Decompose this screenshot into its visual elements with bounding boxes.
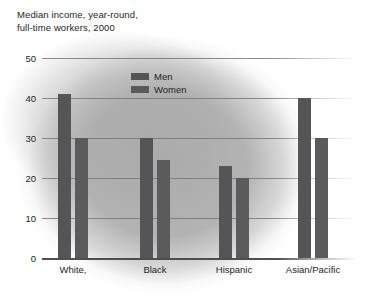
bar-asian-pacific-women: [315, 138, 328, 258]
legend-swatch-women-icon: [131, 86, 149, 93]
chart-figure: Median income, year-round, full-time wor…: [0, 0, 373, 299]
x-tick-label-asian-pacific: Asian/Pacific: [286, 264, 340, 275]
bar-hispanic-women: [236, 178, 249, 258]
y-tick-label-0: 0: [31, 253, 36, 264]
x-tick-label-hispanic: Hispanic: [216, 264, 252, 275]
chart-legend: Men Women: [131, 70, 187, 96]
gridline-50: 50: [42, 58, 358, 59]
plot-area: 50 40 30 20 10 0 White, Black: [42, 58, 358, 258]
y-tick-label-40: 40: [25, 93, 36, 104]
legend-item-women: Women: [131, 83, 187, 96]
y-tick-label-50: 50: [25, 53, 36, 64]
x-axis-baseline: 0: [42, 258, 358, 260]
legend-swatch-men-icon: [131, 73, 149, 80]
bar-white-women: [75, 138, 88, 258]
x-tick-label-white: White,: [60, 264, 87, 275]
legend-label-women: Women: [154, 84, 187, 95]
bar-black-women: [157, 160, 170, 258]
legend-item-men: Men: [131, 70, 187, 83]
y-tick-label-20: 20: [25, 173, 36, 184]
x-tick-label-black: Black: [143, 264, 166, 275]
y-tick-label-10: 10: [25, 213, 36, 224]
bar-asian-pacific-men: [298, 98, 311, 258]
legend-label-men: Men: [154, 71, 172, 82]
bar-hispanic-men: [219, 166, 232, 258]
y-tick-label-30: 30: [25, 133, 36, 144]
bar-black-men: [140, 138, 153, 258]
bar-white-men: [58, 94, 71, 258]
chart-title: Median income, year-round, full-time wor…: [17, 9, 138, 34]
